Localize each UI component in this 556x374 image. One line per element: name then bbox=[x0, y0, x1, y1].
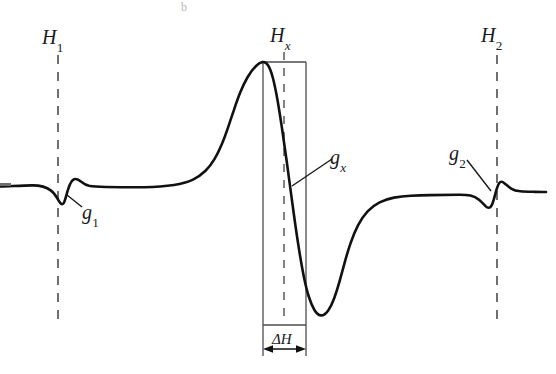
g2-leader-line bbox=[467, 160, 491, 191]
epr-spectrum-figure: H1 Hx H2 g1 gx g2 ΔH b bbox=[0, 0, 556, 374]
gx-leader-line bbox=[292, 159, 332, 186]
scan-artifact-top-mark: b bbox=[181, 0, 187, 15]
g-factor-gx-label: gx bbox=[330, 147, 346, 171]
spectrum-canvas bbox=[0, 0, 556, 374]
leader-lines bbox=[67, 159, 491, 207]
field-h2-label: H2 bbox=[481, 25, 502, 49]
field-h1-label: H1 bbox=[42, 27, 63, 51]
g-factor-g1-label: g1 bbox=[82, 202, 99, 226]
scan-artifact-left-edge bbox=[0, 183, 11, 186]
linewidth-delta-h-label: ΔH bbox=[272, 332, 292, 347]
g-factor-g2-label: g2 bbox=[449, 143, 466, 167]
epr-derivative-curve bbox=[0, 62, 546, 315]
field-hx-label: Hx bbox=[270, 25, 290, 49]
g1-leader-line bbox=[67, 195, 82, 207]
